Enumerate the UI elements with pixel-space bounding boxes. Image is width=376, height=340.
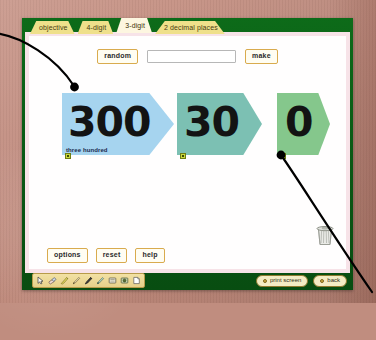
note-tool-icon[interactable]: [107, 275, 118, 286]
reset-button[interactable]: reset: [96, 248, 128, 263]
thin-pen-tool-icon[interactable]: [71, 275, 82, 286]
application-window: random make 300 three hundred 30 0: [22, 18, 353, 290]
place-value-card-tens[interactable]: 30: [177, 93, 262, 155]
drawing-toolbar: [32, 273, 145, 288]
pointer-tool-icon[interactable]: [35, 275, 46, 286]
random-button[interactable]: random: [97, 49, 138, 64]
card-word-label: three hundred: [66, 147, 108, 153]
help-button[interactable]: help: [135, 248, 164, 263]
content-panel: random make 300 three hundred 30 0: [25, 32, 350, 273]
page-tool-icon[interactable]: [131, 275, 142, 286]
back-button[interactable]: back: [313, 275, 347, 287]
stamp-tool-icon[interactable]: [119, 275, 130, 286]
print-screen-label: print screen: [270, 277, 301, 284]
place-value-card-tray: 300 three hundred 30 0: [29, 93, 350, 173]
control-row: random make: [29, 49, 346, 64]
page-button-row: options reset help: [47, 248, 165, 263]
card-handle-hundreds[interactable]: [65, 153, 71, 159]
back-label: back: [327, 277, 340, 284]
back-arrow-icon: [320, 279, 324, 283]
number-input[interactable]: [147, 50, 236, 63]
card-digits: 0: [285, 95, 313, 149]
card-handle-ones[interactable]: [280, 153, 286, 159]
eraser-tool-icon[interactable]: [47, 275, 58, 286]
pencil-tool-icon[interactable]: [95, 275, 106, 286]
place-value-card-ones[interactable]: 0: [277, 93, 330, 155]
card-digits: 300: [68, 95, 151, 149]
footer-button-row: print screen back: [256, 275, 347, 287]
print-screen-icon: [263, 279, 267, 283]
make-button[interactable]: make: [245, 49, 278, 64]
card-handle-tens[interactable]: [180, 153, 186, 159]
print-screen-button[interactable]: print screen: [256, 275, 308, 287]
tab-objective[interactable]: objective: [30, 21, 75, 34]
trash-bin-icon[interactable]: [315, 224, 335, 246]
tab-4-digit[interactable]: 4-digit: [78, 21, 114, 34]
tab-2-decimal-places[interactable]: 2 decimal places: [155, 21, 225, 34]
marker-pen-tool-icon[interactable]: [83, 275, 94, 286]
tab-strip: objective 4-digit 3-digit 2 decimal plac…: [22, 18, 353, 33]
card-digits: 30: [184, 95, 239, 149]
place-value-card-hundreds[interactable]: 300 three hundred: [62, 93, 174, 155]
options-button[interactable]: options: [47, 248, 88, 263]
highlighter-tool-icon[interactable]: [59, 275, 70, 286]
page-surface: random make 300 three hundred 30 0: [29, 36, 346, 269]
tab-3-digit[interactable]: 3-digit: [116, 18, 152, 33]
